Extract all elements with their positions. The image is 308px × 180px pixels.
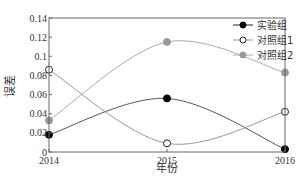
series-line: [49, 41, 285, 121]
y-tick-label: 0.1: [35, 51, 48, 62]
series-2: [46, 66, 289, 147]
legend-label: 对照组1: [257, 34, 293, 46]
y-tick-label: 0.14: [30, 13, 48, 24]
data-point-marker: [164, 140, 171, 147]
data-point-marker: [240, 22, 246, 28]
legend-item: 对照组2: [233, 49, 293, 61]
series-line: [49, 70, 285, 145]
data-point-marker: [240, 37, 246, 43]
y-axis-title: 误差: [3, 75, 17, 97]
legend-label: 实验组: [257, 19, 287, 31]
y-tick-label: 0.02: [30, 127, 48, 138]
legend-item: 实验组: [233, 19, 287, 31]
y-tick-label: 0.12: [30, 32, 48, 43]
y-tick-label: 0.04: [30, 108, 48, 119]
y-tick-label: 0.08: [30, 70, 48, 81]
x-axis-title: 年份: [156, 161, 178, 175]
data-point-marker: [164, 95, 171, 102]
series-3: [46, 38, 289, 123]
data-point-marker: [240, 52, 246, 58]
line-chart: 00.020.040.060.080.10.120.14 20142015201…: [0, 0, 308, 180]
legend-label: 对照组2: [257, 49, 293, 61]
legend: 实验组对照组1对照组2: [233, 19, 293, 61]
series-layer: [46, 38, 289, 152]
x-tick-label: 2014: [39, 155, 59, 166]
legend-item: 对照组1: [233, 34, 293, 46]
y-tick-label: 0.06: [30, 89, 48, 100]
data-point-marker: [164, 38, 171, 45]
x-tick-label: 2016: [275, 155, 295, 166]
